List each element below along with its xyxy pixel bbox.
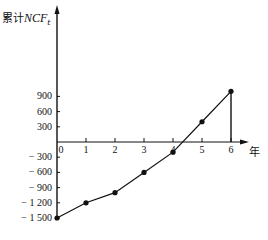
- y-axis-title-prefix: 累计: [2, 12, 24, 25]
- y-tick-label: − 1 500: [4, 213, 52, 223]
- x-tick-label: 3: [138, 145, 150, 155]
- x-tick-label: 6: [225, 145, 237, 155]
- y-axis-title-var: NCF: [24, 11, 47, 25]
- cumulative-ncf-chart: 累计NCFt 900600300− 300− 600− 900− 1 200− …: [0, 0, 268, 240]
- x-axis-title: 年: [249, 143, 260, 159]
- y-axis-arrow-icon: [55, 5, 60, 14]
- y-tick-label: 900: [4, 91, 52, 101]
- y-tick-label: − 600: [4, 167, 52, 177]
- y-axis-title: 累计NCFt: [2, 9, 51, 27]
- y-axis-title-sub: t: [47, 18, 50, 27]
- data-point: [141, 170, 146, 175]
- y-tick-label: 600: [4, 107, 52, 117]
- data-point: [83, 200, 88, 205]
- x-tick-label: 4: [167, 145, 179, 155]
- y-tick-label: − 300: [4, 152, 52, 162]
- y-tick-label: − 1 200: [4, 198, 52, 208]
- y-tick-label: − 900: [4, 183, 52, 193]
- x-tick-label: 2: [109, 145, 121, 155]
- data-point: [54, 215, 59, 220]
- x-axis-arrow-icon: [240, 140, 249, 145]
- y-tick-label: 300: [4, 122, 52, 132]
- x-tick-label: 5: [196, 145, 208, 155]
- x-tick-label: 0: [55, 145, 67, 155]
- data-point: [199, 119, 204, 124]
- x-tick-label: 1: [80, 145, 92, 155]
- data-point: [112, 190, 117, 195]
